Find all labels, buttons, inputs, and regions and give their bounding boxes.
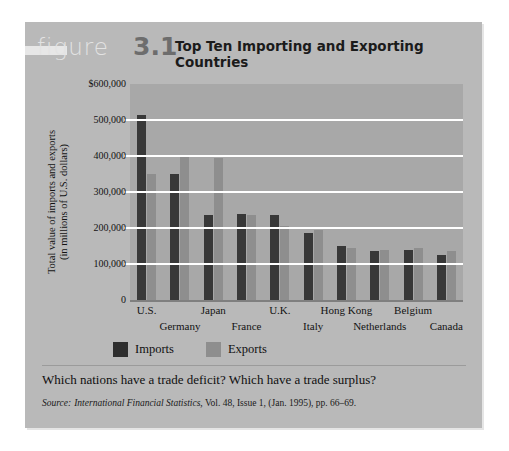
y-tick-label: 500,000 [64, 114, 126, 125]
bar-imports [337, 246, 346, 300]
bar-exports [380, 250, 389, 300]
x-axis-label: Germany [159, 320, 200, 332]
y-tick-label: 200,000 [64, 222, 126, 233]
source-rest: Vol. 48, Issue 1, (Jan. 1995), pp. 66–69… [203, 398, 357, 408]
bar-imports [304, 233, 313, 300]
legend-item-imports: Imports [113, 342, 174, 357]
gridline [130, 263, 463, 265]
figure-number: 3.1 [133, 32, 177, 61]
legend-swatch-exports [206, 342, 221, 357]
x-axis-label: Canada [430, 320, 463, 332]
figure-card: figure 3.1 Top Ten Importing and Exporti… [25, 22, 482, 428]
x-axis-label: U.K. [269, 304, 290, 316]
gridline [130, 155, 463, 157]
source-prefix: Source: [42, 398, 71, 408]
bar-imports [437, 255, 446, 300]
caption-divider [42, 365, 466, 366]
gridline [130, 227, 463, 229]
bar-exports [347, 248, 356, 300]
bar-imports [370, 251, 379, 300]
x-axis-line [130, 300, 463, 302]
bar-exports [147, 174, 156, 300]
legend-label-imports: Imports [135, 342, 174, 357]
x-axis-label: Belgium [394, 304, 432, 316]
y-axis-title-line1: Total value of imports and exports [46, 107, 58, 297]
source-title: International Financial Statistics, [74, 398, 203, 408]
plot-area [130, 84, 463, 300]
figure-header: figure 3.1 Top Ten Importing and Exporti… [25, 32, 482, 66]
bar-exports [314, 230, 323, 300]
x-axis-label: Italy [303, 320, 323, 332]
figure-title: Top Ten Importing and Exporting Countrie… [175, 38, 482, 70]
legend-swatch-imports [113, 342, 128, 357]
bar-imports [170, 174, 179, 300]
caption-question: Which nations have a trade deficit? Whic… [42, 372, 376, 388]
x-axis-label: U.S. [137, 304, 157, 316]
caption-source: Source:International Financial Statistic… [42, 398, 356, 408]
figure-word: figure [37, 34, 109, 60]
bar-exports [447, 251, 456, 300]
x-axis-label: Netherlands [353, 320, 406, 332]
y-tick-label: 0 [64, 294, 126, 305]
chart-legend: Imports Exports [113, 342, 267, 357]
y-tick-label: 300,000 [64, 186, 126, 197]
bar-imports [404, 250, 413, 300]
y-tick-label: $600,000 [64, 78, 126, 89]
y-tick-label: 400,000 [64, 150, 126, 161]
bar-exports [214, 158, 223, 300]
x-axis-label: France [232, 320, 262, 332]
gridline [130, 119, 463, 121]
legend-label-exports: Exports [228, 342, 267, 357]
y-tick-label: 100,000 [64, 258, 126, 269]
gridline [130, 191, 463, 193]
x-axis-label: Japan [201, 304, 226, 316]
x-axis-label: Hong Kong [321, 304, 373, 316]
bar-exports [414, 248, 423, 300]
legend-item-exports: Exports [206, 342, 267, 357]
bar-imports [137, 115, 146, 300]
x-axis-labels: U.S.GermanyJapanFranceU.K.ItalyHong Kong… [130, 303, 463, 339]
